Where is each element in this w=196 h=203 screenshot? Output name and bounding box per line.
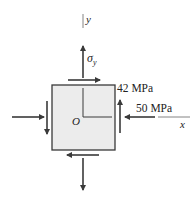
shear-stress-label: 42 MPa [117, 82, 153, 94]
origin-label: O [72, 115, 80, 127]
normal-x-stress-label: 50 MPa [136, 102, 172, 114]
y-axis-label: y [85, 13, 91, 25]
x-axis-label: x [179, 118, 185, 130]
sigma-y-label: σy [87, 51, 97, 67]
stress-element-diagram: y x O σy 42 MPa 50 MPa [0, 0, 196, 203]
